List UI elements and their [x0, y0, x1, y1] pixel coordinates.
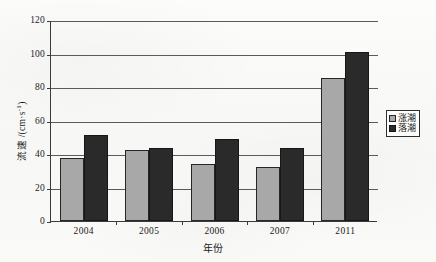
bar-2007-涨潮 — [256, 167, 280, 221]
bar-group — [191, 21, 239, 221]
legend-item-落潮: 落潮 — [389, 124, 416, 133]
bar-chart-figure: 流速 /(cm·s-1) 020406080100120 20042005200… — [0, 0, 436, 262]
bar-group — [321, 21, 369, 221]
bar-group — [60, 21, 108, 221]
x-axis-tick-mark — [116, 221, 117, 225]
y-axis-tick-mark — [47, 155, 51, 156]
plot-area: 020406080100120 20042005200620072011 — [50, 21, 377, 222]
y-axis-title-tail: ) — [17, 101, 27, 104]
bar-2011-涨潮 — [321, 78, 345, 221]
x-axis-title: 年份 — [203, 240, 224, 255]
x-axis-tick-label-2006: 2006 — [204, 226, 224, 236]
legend-label: 涨潮 — [398, 114, 416, 123]
bar-group — [125, 21, 173, 221]
bar-2006-涨潮 — [191, 164, 215, 221]
y-axis-tick-mark — [47, 189, 51, 190]
bar-2005-涨潮 — [125, 150, 149, 221]
legend-item-涨潮: 涨潮 — [389, 114, 416, 123]
x-axis-tick-label-2005: 2005 — [139, 226, 159, 236]
chart-legend: 涨潮落潮 — [386, 110, 420, 137]
y-axis-tick-mark — [47, 55, 51, 56]
bar-2011-落潮 — [345, 52, 369, 221]
bar-2004-涨潮 — [60, 158, 84, 221]
legend-label: 落潮 — [398, 124, 416, 133]
x-axis-tick-mark — [313, 221, 314, 225]
y-axis-tick-label: 20 — [35, 184, 45, 194]
y-axis-tick-mark — [47, 21, 51, 22]
y-axis-tick-label: 120 — [30, 16, 45, 26]
legend-swatch-icon — [389, 125, 396, 132]
y-axis-tick-mark — [47, 222, 51, 223]
x-axis-tick-label-2007: 2007 — [270, 226, 290, 236]
y-axis-title: 流速 /(cm·s-1) — [14, 101, 28, 160]
y-axis-tick-label: 100 — [30, 50, 45, 60]
x-axis-tick-mark — [247, 221, 248, 225]
y-axis-tick-label: 60 — [35, 117, 45, 127]
y-axis-title-main: 流速 /(cm·s — [17, 111, 27, 160]
y-axis-tick-label: 40 — [35, 150, 45, 160]
y-axis-tick-label: 80 — [35, 83, 45, 93]
x-axis-tick-mark — [182, 221, 183, 225]
x-axis-tick-label-2004: 2004 — [74, 226, 94, 236]
x-axis-tick-label-2011: 2011 — [335, 226, 355, 236]
bar-2006-落潮 — [215, 139, 239, 221]
legend-swatch-icon — [389, 115, 396, 122]
bar-2004-落潮 — [84, 135, 108, 221]
y-axis-tick-mark — [47, 122, 51, 123]
bar-group — [256, 21, 304, 221]
y-axis-title-exponent: -1 — [15, 105, 23, 111]
bar-2007-落潮 — [280, 148, 304, 221]
y-axis-tick-label: 0 — [40, 217, 45, 227]
bar-2005-落潮 — [149, 148, 173, 221]
y-axis-tick-mark — [47, 88, 51, 89]
